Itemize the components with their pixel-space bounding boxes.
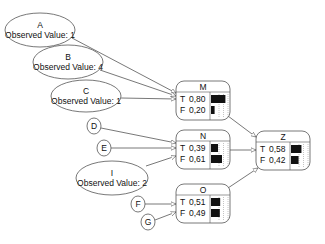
probability-nodes-layer: MT0,80F0,20NT0,39F0,61ZT0,58F0,42OT0,51F…	[176, 81, 310, 223]
observed-value: Observed Value: 1	[51, 96, 121, 106]
edge-i-n	[146, 156, 176, 166]
evidence-node-c[interactable]: CObserved Value: 1	[51, 80, 121, 112]
node-g[interactable]: G	[141, 214, 155, 230]
node-title: Z	[280, 132, 285, 142]
state-probability: 0,51	[189, 197, 206, 207]
probability-bar	[211, 155, 222, 163]
prob-node-m[interactable]: MT0,80F0,20	[176, 81, 230, 120]
state-probability: 0,39	[189, 143, 206, 153]
node-label: E	[101, 143, 107, 153]
node-label: I	[111, 168, 113, 178]
state-probability: 0,20	[189, 105, 206, 115]
observed-value: Observed Value: 2	[77, 178, 147, 188]
node-d[interactable]: D	[87, 118, 101, 134]
node-label: B	[65, 52, 71, 62]
state-label: F	[180, 208, 185, 218]
state-label: T	[180, 197, 185, 207]
state-label: T	[180, 94, 185, 104]
state-label: T	[260, 144, 265, 154]
probability-bar	[211, 144, 218, 152]
node-title: O	[200, 185, 207, 195]
bayesian-network-canvas: AObserved Value: 1BObserved Value: 4CObs…	[0, 0, 325, 244]
node-label: A	[37, 20, 43, 30]
state-probability: 0,42	[269, 155, 286, 165]
node-label: F	[135, 199, 140, 209]
node-label: D	[91, 121, 97, 131]
state-label: T	[180, 143, 185, 153]
evidence-node-a[interactable]: AObserved Value: 1	[5, 13, 75, 47]
node-title: N	[200, 131, 206, 141]
state-probability: 0,61	[189, 154, 206, 164]
edge-c-m	[121, 98, 176, 99]
state-label: F	[180, 154, 185, 164]
prob-node-z[interactable]: ZT0,58F0,42	[256, 131, 310, 170]
state-probability: 0,80	[189, 94, 206, 104]
node-f[interactable]: F	[131, 196, 145, 212]
edge-o-z	[228, 168, 258, 188]
probability-bar	[211, 95, 225, 103]
probability-bar	[291, 156, 299, 164]
edge-d-n	[101, 128, 176, 143]
state-label: F	[260, 155, 265, 165]
probability-bar	[291, 145, 301, 153]
probability-bar	[211, 106, 215, 114]
evidence-node-i[interactable]: IObserved Value: 2	[76, 161, 148, 195]
edge-m-z	[228, 116, 256, 137]
observed-value: Observed Value: 1	[5, 30, 75, 40]
probability-bar	[211, 198, 220, 206]
prob-node-o[interactable]: OT0,51F0,49	[176, 184, 230, 223]
node-e[interactable]: E	[97, 140, 111, 156]
prob-node-n[interactable]: NT0,39F0,61	[176, 130, 230, 169]
observed-value: Observed Value: 4	[33, 62, 103, 72]
edge-g-o	[155, 212, 176, 220]
node-title: M	[199, 82, 206, 92]
evidence-node-b[interactable]: BObserved Value: 4	[33, 45, 103, 79]
node-label: C	[83, 86, 89, 96]
state-probability: 0,58	[269, 144, 286, 154]
probability-bar	[211, 209, 220, 217]
state-label: F	[180, 105, 185, 115]
state-probability: 0,49	[189, 208, 206, 218]
node-label: G	[145, 217, 152, 227]
